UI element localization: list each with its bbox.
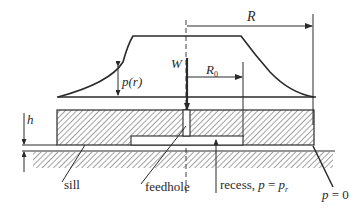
runner-surface xyxy=(22,145,335,168)
film-thickness-label: h xyxy=(27,112,34,127)
sill-label: sill xyxy=(64,177,80,192)
recess-label: recess, p = pr xyxy=(220,177,289,194)
recess-radius-label: R0 xyxy=(205,62,218,79)
feedhole xyxy=(183,110,190,136)
feedhole-label: feedhole xyxy=(145,179,190,194)
recess xyxy=(131,136,243,145)
edge-pressure-label: p = 0 xyxy=(321,187,349,202)
outer-radius-label: R xyxy=(246,9,256,24)
load-label: W xyxy=(171,56,183,71)
bearing-diagram: R W R0 p(r) h sill feedhole recess, p = … xyxy=(0,0,363,208)
bearing-pad xyxy=(57,110,314,145)
pressure-label: p(r) xyxy=(121,74,142,89)
